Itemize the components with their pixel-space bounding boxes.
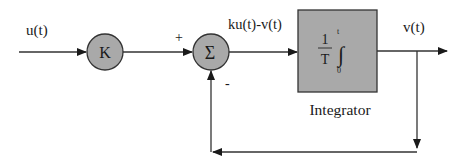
integrator-denominator: T (321, 52, 330, 67)
summer-block: Σ (193, 34, 229, 70)
integral-lower-limit: 0 (337, 66, 341, 75)
output-signal-label: v(t) (403, 19, 425, 36)
block-diagram: u(t) K + Σ - ku(t)-v(t) 1 T ∫ t 0 Integr… (0, 0, 463, 166)
integrator-numerator: 1 (322, 32, 329, 47)
input-signal-label: u(t) (26, 22, 48, 39)
error-signal-label: ku(t)-v(t) (228, 16, 282, 33)
integrator-block: 1 T ∫ t 0 (298, 10, 377, 92)
plus-sign: + (175, 30, 183, 45)
integrator-caption: Integrator (309, 101, 371, 118)
minus-sign: - (225, 76, 230, 91)
sigma-symbol: Σ (205, 43, 215, 63)
gain-symbol: K (99, 44, 111, 61)
gain-block: K (87, 34, 123, 70)
